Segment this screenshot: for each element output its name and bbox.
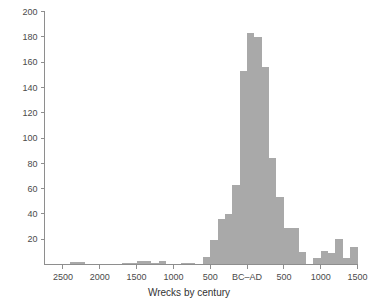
- histogram-bar: [240, 71, 247, 265]
- histogram-bar: [247, 33, 254, 265]
- y-tick-label: 20: [27, 234, 37, 244]
- histogram-bar: [276, 197, 283, 264]
- y-tick-label: 40: [27, 209, 37, 219]
- histogram-bar: [218, 219, 225, 265]
- x-tick-label: 500: [276, 272, 291, 282]
- y-tick-label: 80: [27, 159, 37, 169]
- x-axis-ticks: 2500200015001000500BC–AD50010001500: [53, 265, 368, 282]
- histogram-bar: [328, 253, 335, 264]
- x-tick-label: 2000: [90, 272, 110, 282]
- bars-group: [70, 33, 357, 265]
- x-axis-title: Wrecks by century: [148, 287, 230, 298]
- histogram-bar: [254, 37, 261, 265]
- y-axis-ticks: 20406080100120140160180200: [22, 7, 44, 245]
- axes-group: 20406080100120140160180200 2500200015001…: [22, 7, 367, 282]
- chart-figure: 20406080100120140160180200 2500200015001…: [0, 0, 379, 308]
- histogram-bar: [335, 239, 342, 264]
- histogram-bar: [210, 240, 217, 264]
- y-tick-label: 100: [22, 133, 37, 143]
- y-tick-label: 60: [27, 184, 37, 194]
- y-tick-label: 200: [22, 7, 37, 17]
- histogram-bar: [262, 67, 269, 264]
- histogram-bar: [350, 247, 357, 265]
- y-tick-label: 140: [22, 83, 37, 93]
- y-tick-label: 160: [22, 57, 37, 67]
- y-tick-label: 120: [22, 108, 37, 118]
- x-tick-label: BC–AD: [232, 272, 263, 282]
- histogram-plot: 20406080100120140160180200 2500200015001…: [0, 0, 379, 308]
- histogram-bar: [232, 185, 239, 265]
- histogram-bar: [159, 261, 166, 265]
- histogram-bar: [313, 258, 320, 264]
- x-tick-label: 1000: [163, 272, 183, 282]
- y-tick-label: 180: [22, 32, 37, 42]
- histogram-bar: [269, 158, 276, 264]
- histogram-bar: [321, 251, 328, 265]
- x-tick-label: 1500: [127, 272, 147, 282]
- histogram-bar: [203, 257, 210, 265]
- x-tick-label: 1000: [311, 272, 331, 282]
- x-tick-label: 2500: [53, 272, 73, 282]
- histogram-bar: [291, 228, 298, 265]
- histogram-bar: [225, 214, 232, 265]
- histogram-bar: [284, 228, 291, 265]
- histogram-bar: [137, 261, 144, 265]
- histogram-bar: [343, 258, 350, 264]
- x-tick-label: 1500: [347, 272, 367, 282]
- x-tick-label: 500: [203, 272, 218, 282]
- histogram-bar: [144, 261, 151, 265]
- histogram-bar: [299, 252, 306, 265]
- axis-lines: [45, 12, 358, 265]
